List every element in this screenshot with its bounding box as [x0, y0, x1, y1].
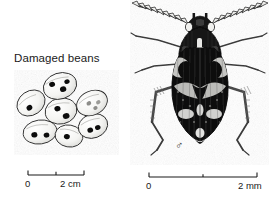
- beetle-elytra: [172, 48, 228, 141]
- antenna-right: [210, 1, 268, 24]
- scale-bar-beans: 0 2 cm: [27, 170, 87, 179]
- scale-bar-beetle: 0 2 mm: [148, 172, 260, 181]
- damaged-beans-caption: Damaged beans: [14, 52, 100, 64]
- male-sex-symbol: ♂: [175, 140, 183, 151]
- beetle-panel: ♂: [130, 0, 269, 201]
- scale-bar-beans-max-label: 2 cm: [60, 178, 81, 189]
- damaged-beans-illustration: [14, 70, 119, 155]
- scale-bar-beetle-max-label: 2 mm: [238, 180, 262, 191]
- damaged-beans-panel: Damaged beans: [0, 0, 135, 201]
- figure-plate: Damaged beans: [0, 0, 269, 201]
- bean-top: [40, 70, 80, 104]
- scale-bar-beetle-zero-label: 0: [146, 180, 151, 191]
- beetle-illustration: [130, 0, 269, 165]
- scale-bar-beans-zero-label: 0: [25, 178, 30, 189]
- bean-upper-right: [72, 85, 111, 120]
- antenna-left: [132, 1, 190, 24]
